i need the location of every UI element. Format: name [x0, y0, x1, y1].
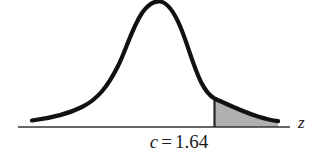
z-axis-label: z [298, 113, 305, 133]
normal-distribution-figure: z c=1.64 [0, 0, 325, 159]
critical-value-caption: c=1.64 [0, 131, 325, 153]
normal-density-curve [32, 1, 278, 121]
critical-value-number: 1.64 [175, 131, 208, 152]
equals-sign: = [158, 131, 175, 152]
critical-value-variable: c [150, 131, 158, 152]
